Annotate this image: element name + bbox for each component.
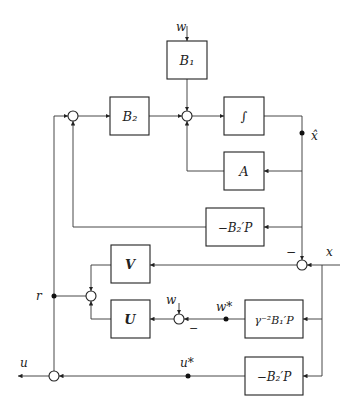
- block-diagram: B₁ B₂ ∫ A −B₂′P V U γ⁻²B₁′P −B₂′P: [0, 0, 359, 415]
- neg-b2p-bottom-label: −B₂′P: [257, 370, 292, 384]
- wire-a-to-sum2: [187, 121, 224, 171]
- wire-u-to-sumr: [91, 301, 111, 319]
- block-gamma: γ⁻²B₁′P: [245, 300, 303, 338]
- node-ustar: [186, 374, 191, 379]
- node-wstar: [224, 317, 229, 322]
- block-a: A: [224, 152, 264, 190]
- block-b2-label: B₂: [122, 109, 138, 124]
- block-b2: B₂: [110, 97, 149, 135]
- sum-junction-2: [182, 111, 192, 121]
- integrator-label: ∫: [241, 109, 248, 124]
- signal-minus-x: −: [286, 245, 296, 259]
- block-u: U: [111, 300, 150, 338]
- block-integrator: ∫: [224, 97, 264, 135]
- wire-r-to-sum1: [54, 116, 68, 371]
- sum-junction-u: [49, 371, 59, 381]
- sum-junction-1: [68, 111, 78, 121]
- neg-b2p-top-label: −B₂′P: [218, 221, 253, 235]
- signal-w-mid: w: [166, 293, 177, 307]
- sum-junction-r: [86, 291, 96, 301]
- block-u-label: U: [124, 312, 136, 327]
- signal-x: x: [326, 245, 333, 259]
- signal-r: r: [36, 289, 43, 303]
- sum-junction-w: [174, 314, 184, 324]
- signal-minus-w: −: [189, 322, 198, 335]
- node-xhat: [300, 131, 305, 136]
- block-a-label: A: [238, 164, 248, 179]
- block-v: V: [111, 245, 150, 283]
- signal-xhat: x̂: [311, 129, 318, 143]
- gamma-label: γ⁻²B₁′P: [254, 314, 294, 327]
- block-neg-b2p-bottom: −B₂′P: [245, 357, 303, 395]
- block-neg-b2p-top: −B₂′P: [206, 208, 264, 246]
- block-b1-label: B₁: [179, 53, 195, 68]
- wire-v-to-sumr: [91, 265, 111, 291]
- signal-wstar: w*: [216, 300, 232, 314]
- block-b1: B₁: [167, 41, 207, 79]
- signal-ustar: u*: [180, 356, 194, 370]
- sum-junction-x: [297, 260, 307, 270]
- node-r: [52, 294, 57, 299]
- wire-int-out: [264, 116, 302, 260]
- wire-negb2p-to-sum1: [73, 121, 206, 227]
- signal-w-top: w: [176, 20, 187, 34]
- signal-u: u: [20, 356, 28, 370]
